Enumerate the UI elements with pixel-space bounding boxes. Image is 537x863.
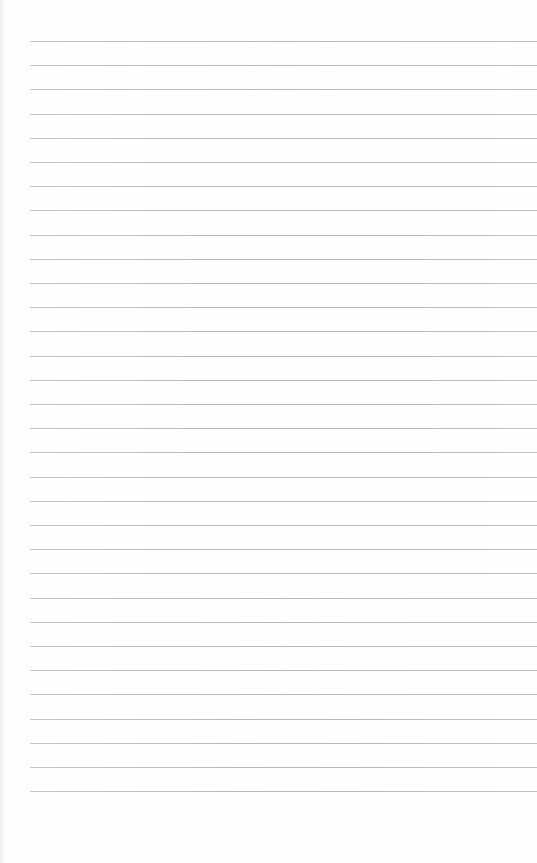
- ruled-line: [30, 331, 537, 332]
- ruled-line: [30, 452, 537, 453]
- lined-paper-page: [0, 0, 537, 863]
- ruled-line: [30, 114, 537, 115]
- ruled-line: [30, 235, 537, 236]
- ruled-line: [30, 283, 537, 284]
- ruled-line: [30, 549, 537, 550]
- ruled-line: [30, 501, 537, 502]
- ruled-line: [30, 162, 537, 163]
- ruled-line: [30, 65, 537, 66]
- ruled-line: [30, 622, 537, 623]
- ruled-line: [30, 307, 537, 308]
- ruled-line: [30, 719, 537, 720]
- ruled-line: [30, 573, 537, 574]
- ruled-line: [30, 210, 537, 211]
- ruled-line: [30, 380, 537, 381]
- ruled-line: [30, 186, 537, 187]
- ruled-line: [30, 525, 537, 526]
- ruled-line: [30, 41, 537, 42]
- ruled-line: [30, 259, 537, 260]
- ruled-line: [30, 477, 537, 478]
- ruled-line: [30, 670, 537, 671]
- ruled-line: [30, 598, 537, 599]
- ruled-line: [30, 89, 537, 90]
- ruled-line: [30, 404, 537, 405]
- ruled-line: [30, 743, 537, 744]
- ruled-line: [30, 694, 537, 695]
- ruled-line: [30, 791, 537, 792]
- page-edge-shadow: [0, 0, 6, 863]
- ruled-line: [30, 356, 537, 357]
- ruled-line: [30, 767, 537, 768]
- ruled-line: [30, 646, 537, 647]
- ruled-line: [30, 138, 537, 139]
- ruled-line: [30, 428, 537, 429]
